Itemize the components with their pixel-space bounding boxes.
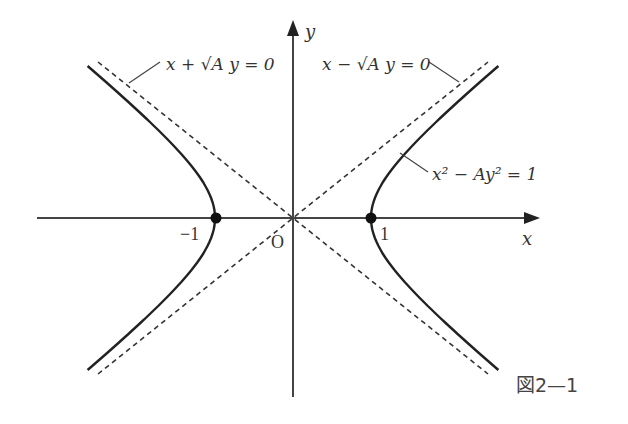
leader-line-curve [400,153,428,172]
tick-label-one: 1 [380,224,389,244]
x-axis-arrow-icon [524,212,540,224]
x-axis-label: x [522,228,532,249]
leader-line-right [429,62,459,82]
asymptote-left-label: x + √A y = 0 [166,54,275,74]
vertex-point-pos [366,213,377,224]
figure-caption: 図2—1 [516,374,578,396]
leader-line-left [129,62,160,83]
y-axis-label: y [304,21,316,42]
hyperbola-diagram: x + √A y = 0 x − √A y = 0 x² − Ay² = 1 y… [0,0,628,424]
origin-label: O [271,232,284,252]
curve-label: x² − Ay² = 1 [432,164,537,184]
y-axis-arrow-icon [287,20,299,36]
asymptote-right-label: x − √A y = 0 [322,54,431,74]
vertex-point-neg [211,213,222,224]
tick-label-neg-one: −1 [180,224,199,244]
